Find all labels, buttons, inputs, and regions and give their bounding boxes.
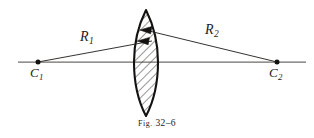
optics-figure: R1 R2 C1 C2 Fig. 32–6 (0, 0, 314, 138)
center-point-2-dot (275, 60, 280, 65)
radius-1-subscript: 1 (89, 36, 94, 46)
figure-caption: Fig. 32–6 (0, 118, 314, 128)
radius-1-label: R1 (80, 30, 94, 47)
figure-caption-number: 32–6 (155, 118, 176, 128)
center-1-subscript: 1 (39, 72, 44, 82)
radius-2-label: R2 (205, 23, 219, 40)
radius-1-base: R (80, 29, 89, 44)
figure-caption-prefix: Fig. (138, 119, 153, 128)
center-1-base: C (30, 65, 39, 80)
center-2-label: C2 (269, 66, 282, 82)
center-1-label: C1 (30, 66, 43, 82)
center-2-subscript: 2 (278, 72, 283, 82)
center-point-1-dot (36, 60, 41, 65)
radius-2-subscript: 2 (214, 29, 219, 39)
center-2-base: C (269, 65, 278, 80)
radius-2-base: R (205, 22, 214, 37)
